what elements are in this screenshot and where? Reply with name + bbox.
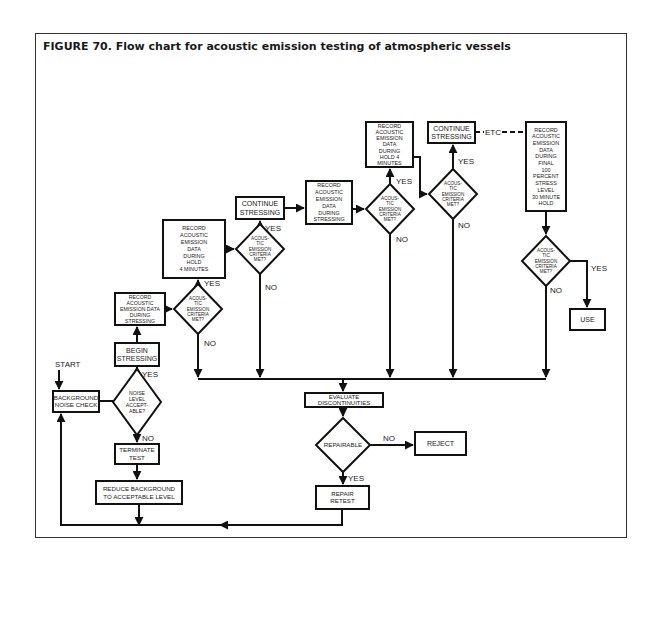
terminate-test-box: TERMINATETEST [115,444,159,464]
noise-level-acceptable-decision-line: ACCEPT- [126,402,149,408]
record-final-box-line: 100 [542,167,551,173]
continue-stressing-1-box: CONTINUESTRESSING [236,197,284,219]
reduce-background-box-line: TO ACCEPTABLE LEVEL [103,493,175,500]
record-hold-1-box-line: RECORD [182,225,205,231]
criteria-5-decision: ACOUS-TICEMISSIONCRITERIAMET? [522,236,570,286]
record-hold-1-box-line: DURING [183,253,204,259]
record-stressing-1-box-line: STRESSING [125,318,155,324]
start-label: START [55,360,81,369]
record-hold-1-box-line: DATA [187,246,201,252]
criteria-5-decision-line: CRITERIA [535,264,557,269]
record-stressing-2-box-line: EMISSION [316,196,342,202]
record-final-box-line: FINAL [538,160,553,166]
label-crit3-yes: YES [396,177,412,186]
repair-retest-box-line: RETEST [330,497,355,504]
criteria-3-decision-line: EMISSION [379,207,401,212]
edge-hold2-crit4 [413,157,427,194]
label-crit5-no: NO [550,286,562,295]
criteria-2-decision-line: MET? [254,257,267,262]
begin-stressing-box: BEGINSTRESSING [115,343,159,366]
record-final-box-line: STRESS [535,180,557,186]
noise-level-acceptable-decision-line: LEVEL [129,396,145,402]
label-crit2-no: NO [265,283,277,292]
record-stressing-2-box-line: STRESSING [313,216,344,222]
record-final-box-line: LEVEL [538,187,555,193]
criteria-3-decision-line: MET? [384,217,397,222]
evaluate-discontinuities-box: EVALUATEDISCONTINUITIES [305,393,383,407]
record-stressing-2-box: RECORDACOUSTICEMISSIONDATADURINGSTRESSIN… [306,181,352,224]
record-hold-2-box: RECORDACOUSTICEMISSIONDATADURINGHOLD 4MI… [366,122,413,167]
continue-stressing-2-box: CONTINUESTRESSING [428,122,475,143]
repair-retest-box-line: REPAIR [331,490,354,497]
criteria-3-decision: ACOUS-TICEMISSIONCRITERIAMET? [366,184,414,234]
criteria-1-decision-line: EMISSION [187,307,209,312]
repair-retest-box: REPAIRRETEST [316,486,369,509]
label-crit3-no: NO [396,235,408,244]
record-hold-2-box-line: DURING [379,148,400,154]
evaluate-discontinuities-box-line: DISCONTINUITIES [318,400,370,406]
reduce-background-box: REDUCE BACKGROUNDTO ACCEPTABLE LEVEL [96,481,182,504]
record-stressing-2-box-line: DURING [318,210,339,216]
continue-stressing-2-box-line: CONTINUE [433,125,470,132]
label-noise-yes: YES [142,370,158,379]
criteria-3-decision-line: ACOUS- [381,196,399,201]
continue-stressing-2-box-text: CONTINUESTRESSING [431,125,471,141]
noise-level-acceptable-decision-line: NOISE [129,390,146,396]
label-crit1-no: NO [204,339,216,348]
record-hold-2-box-line: ACOUSTIC [376,129,404,135]
criteria-4-decision-line: CRITERIA [442,197,464,202]
criteria-4-decision-line: EMISSION [442,192,464,197]
record-final-box-line: DATA [539,147,553,153]
label-crit4-no: NO [458,221,470,230]
record-hold-2-box-line: HOLD 4 [380,154,399,160]
record-stressing-2-box-line: ACOUSTIC [315,189,343,195]
record-hold-1-box-line: 4 MINUTES [180,266,209,272]
label-repairable-yes: YES [348,474,364,483]
record-final-box-line: EMISSION [533,140,559,146]
reduce-background-box-line: REDUCE BACKGROUND [103,485,176,492]
record-final-box-line: ACOUSTIC [532,133,560,139]
background-noise-check-box-line: NOISE CHECK [55,401,99,408]
label-crit4-yes: YES [458,157,474,166]
etc-label: ETC [485,128,501,137]
criteria-1-decision: ACOUS-TICEMISSIONCRITERIAMET? [174,284,222,334]
criteria-1-decision-line: MET? [192,317,205,322]
background-noise-check-box-line: BACKGROUND [54,394,99,401]
reject-box-line: REJECT [427,440,455,447]
use-box: USE [570,309,605,330]
reject-box-text: REJECT [427,440,455,447]
criteria-2-decision-line: TIC [256,241,264,246]
record-stressing-1-box: RECORDACOUSTICEMISSION DATADURINGSTRESSI… [115,293,165,325]
record-final-box-line: HOLD [539,200,554,206]
record-hold-1-box-line: HOLD [187,259,202,265]
record-hold-1-box-line: ACOUSTIC [180,232,208,238]
record-hold-1-box: RECORDACOUSTICEMISSIONDATADURINGHOLD4 MI… [163,220,225,278]
evaluate-discontinuities-box-line: EVALUATE [329,394,359,400]
criteria-4-decision: ACOUS-TICEMISSIONCRITERIAMET? [429,169,477,219]
flowchart: BACKGROUNDNOISE CHECKNOISELEVELACCEPT-AB… [0,0,650,620]
background-noise-check-box-text: BACKGROUNDNOISE CHECK [54,394,99,409]
repair-retest-box-text: REPAIRRETEST [330,490,355,505]
criteria-1-decision-line: ACOUS- [189,296,207,301]
criteria-2-decision-line: ACOUS- [251,236,269,241]
continue-stressing-1-box-text: CONTINUESTRESSING [240,200,280,216]
continue-stressing-1-box-line: CONTINUE [242,200,279,207]
label-noise-no: NO [142,434,154,443]
criteria-5-decision-line: TIC [542,253,550,258]
criteria-5-decision-line: ACOUS- [537,248,555,253]
record-final-box-line: RECORD [534,127,557,133]
record-final-box-line: PERCENT [533,173,559,179]
terminate-test-box-line: TEST [129,454,145,461]
record-hold-1-box-line: EMISSION [181,239,207,245]
criteria-5-decision-line: MET? [540,269,553,274]
repairable-decision-text: REPAIRABLE [324,441,362,448]
criteria-2-decision-line: EMISSION [249,247,271,252]
record-final-box-line: 30 MINUTE [532,194,561,200]
background-noise-check-box: BACKGROUNDNOISE CHECK [53,391,99,412]
criteria-2-decision-line: CRITERIA [249,252,271,257]
criteria-4-decision-line: ACOUS- [444,181,462,186]
edge-bottom-loop [61,414,342,525]
label-repairable-no: NO [383,434,395,443]
repairable-decision: REPAIRABLE [316,418,370,472]
label-crit5-yes: YES [591,264,607,273]
